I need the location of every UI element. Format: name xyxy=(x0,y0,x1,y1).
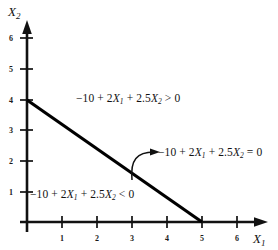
annotation-eq-relation: = 0 xyxy=(244,146,262,158)
x-axis-arrowhead xyxy=(254,217,268,227)
annotation-gt-prefix: −10 + 2 xyxy=(76,92,113,104)
y-axis-label-subscript: 2 xyxy=(16,11,21,21)
y-tick-label-3: 3 xyxy=(9,126,13,135)
annotation-eq-var2: X xyxy=(233,146,240,158)
annotation-eq-prefix: −10 + 2 xyxy=(158,146,195,158)
linear-inequality-diagram: 6 5 4 3 2 1 1 2 3 4 5 6 X2 X1 xyxy=(0,0,278,250)
x-tick-label-4: 4 xyxy=(165,234,169,243)
y-axis-label: X2 xyxy=(7,4,21,21)
x-tick-label-1: 1 xyxy=(60,234,64,243)
annotation-eq-middle: + 2.5 xyxy=(206,146,233,158)
y-axis-arrowhead xyxy=(22,20,32,34)
annotation-eq-sub1: 1 xyxy=(202,151,206,160)
annotation-gt-middle: + 2.5 xyxy=(124,92,151,104)
constraint-boundary-line xyxy=(27,100,202,222)
annotation-lt-var1: X xyxy=(67,188,74,200)
annotation-greater-than: −10 + 2X1 + 2.5X2 > 0 xyxy=(76,92,180,104)
x-tick-label-3: 3 xyxy=(130,234,134,243)
x-tick-label-2: 2 xyxy=(95,234,99,243)
annotation-equals-zero: −10 + 2X1 + 2.5X2 = 0 xyxy=(158,146,262,158)
annotation-lt-sub1: 1 xyxy=(74,193,78,202)
annotation-lt-prefix: −10 + 2 xyxy=(30,188,67,200)
annotation-lt-relation: < 0 xyxy=(116,188,134,200)
x-tick-label-5: 5 xyxy=(200,234,204,243)
annotation-gt-sub1: 1 xyxy=(120,97,124,106)
annotation-lt-var2: X xyxy=(105,188,112,200)
plot-canvas: 6 5 4 3 2 1 1 2 3 4 5 6 X2 X1 xyxy=(0,0,278,250)
annotation-lt-middle: + 2.5 xyxy=(78,188,105,200)
y-tick-label-6: 6 xyxy=(9,34,13,43)
annotation-gt-sub2: 2 xyxy=(158,97,162,106)
y-tick-label-2: 2 xyxy=(9,157,13,166)
x-axis-label: X1 xyxy=(252,231,265,248)
x-axis-label-subscript: 1 xyxy=(261,238,266,248)
annotation-gt-relation: > 0 xyxy=(162,92,180,104)
annotation-gt-var1: X xyxy=(113,92,120,104)
y-tick-label-5: 5 xyxy=(9,65,13,74)
annotation-lt-sub2: 2 xyxy=(112,193,116,202)
y-tick-label-1: 1 xyxy=(9,188,13,197)
annotation-gt-var2: X xyxy=(151,92,158,104)
annotation-eq-sub2: 2 xyxy=(240,151,244,160)
x-tick-label-6: 6 xyxy=(235,234,239,243)
annotation-eq-var1: X xyxy=(195,146,202,158)
annotation-less-than: −10 + 2X1 + 2.5X2 < 0 xyxy=(30,188,134,200)
y-tick-label-4: 4 xyxy=(9,96,13,105)
